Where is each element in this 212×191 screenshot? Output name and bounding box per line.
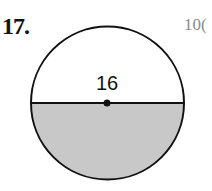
diameter-label: 16: [96, 72, 118, 94]
shaded-semicircle: [31, 103, 184, 180]
center-point: [104, 100, 111, 107]
circle-figure: 16: [0, 0, 212, 191]
